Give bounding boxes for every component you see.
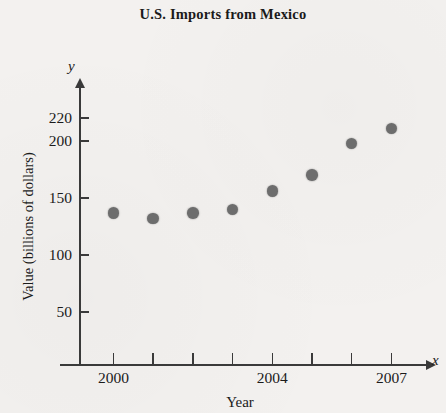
x-axis-tick [391, 353, 393, 364]
x-axis-tick-label: 2000 [84, 369, 144, 387]
data-point [386, 123, 398, 135]
data-point [267, 185, 279, 197]
x-axis-tick [351, 353, 353, 364]
x-variable-label: x [432, 352, 439, 369]
y-variable-label: y [68, 58, 75, 75]
data-point [108, 207, 120, 219]
data-point [147, 213, 159, 225]
x-axis-tick [272, 353, 274, 364]
data-point [306, 169, 318, 181]
y-axis-tick [80, 311, 89, 313]
y-axis-tick [80, 117, 89, 119]
data-point [346, 138, 358, 150]
x-axis-tick [311, 353, 313, 364]
data-point [227, 204, 239, 216]
plot-area: y x 50100150200220 200020042007 Value (b… [0, 0, 446, 413]
y-axis-line [79, 86, 81, 366]
x-axis-title: Year [180, 394, 300, 411]
y-axis-tick [80, 254, 89, 256]
y-axis-arrow-icon [75, 78, 85, 88]
data-point [187, 207, 199, 219]
y-axis-tick [80, 197, 89, 199]
y-axis-tick [80, 140, 89, 142]
x-axis-tick [152, 353, 154, 364]
x-axis-tick [113, 353, 115, 364]
x-axis-tick [192, 353, 194, 364]
x-axis-line [60, 364, 428, 366]
chart-figure: U.S. Imports from Mexico y x 50100150200… [0, 0, 446, 413]
x-axis-tick-label: 2007 [361, 369, 421, 387]
x-axis-tick-label: 2004 [242, 369, 302, 387]
x-axis-tick [232, 353, 234, 364]
y-axis-title: Value (billions of dollars) [20, 117, 37, 337]
